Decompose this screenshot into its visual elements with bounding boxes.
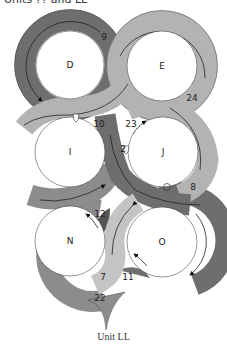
- segment-number: 23: [125, 119, 136, 129]
- circle-label-i: I: [69, 147, 72, 157]
- segment-number: 11: [122, 272, 133, 282]
- circle-label-o: O: [158, 237, 165, 247]
- segment-number: 2: [120, 144, 126, 154]
- track-diagram: D E I J N O 9 24 10 23 2 8 12 7 11 22: [0, 0, 227, 354]
- circle-label-n: N: [67, 236, 74, 246]
- circle-label-j: J: [161, 147, 165, 157]
- segment-number: 24: [186, 93, 198, 103]
- circle-label-d: D: [67, 60, 74, 70]
- segment-number: 7: [100, 272, 106, 282]
- segment-number: 12: [94, 209, 105, 219]
- segment-number: 22: [94, 293, 105, 303]
- segment-number: 8: [190, 182, 196, 192]
- figure-caption: Unit LL: [0, 331, 227, 342]
- segment-number: 10: [93, 119, 105, 129]
- circle-label-e: E: [159, 61, 165, 71]
- segment-number: 9: [101, 32, 107, 42]
